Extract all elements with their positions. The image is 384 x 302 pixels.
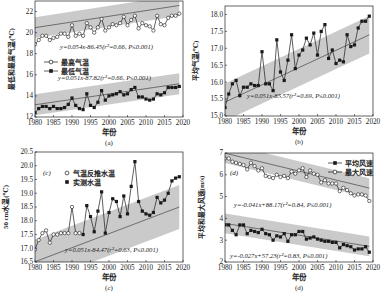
data-point — [368, 15, 371, 18]
data-point — [246, 86, 249, 89]
plot-area — [223, 15, 371, 121]
data-point — [249, 82, 252, 85]
data-point — [346, 244, 349, 247]
data-point — [74, 104, 77, 107]
x-tick-label: 2015 — [157, 264, 172, 272]
data-point — [294, 172, 297, 175]
data-point — [227, 92, 230, 95]
x-tick-label: 2010 — [329, 118, 344, 126]
x-tick-label: 1995 — [273, 118, 288, 126]
data-point — [316, 238, 319, 241]
y-tick-label: 17.0 — [20, 245, 33, 253]
data-point — [320, 239, 323, 242]
data-point — [107, 94, 110, 97]
data-point — [357, 26, 360, 29]
data-point — [283, 79, 286, 82]
data-point — [148, 214, 151, 217]
data-point — [271, 176, 274, 179]
regression-equation: y=0.051x-85.57(r²=0.69, P≤0.001) — [246, 92, 340, 100]
data-point — [249, 229, 252, 232]
y-tick-label: 18.0 — [20, 217, 33, 225]
data-point — [260, 228, 263, 231]
data-point — [294, 67, 297, 70]
data-point — [48, 38, 51, 41]
data-point — [111, 93, 114, 96]
data-point — [67, 103, 70, 106]
legend-label: 最高气温 — [61, 58, 89, 67]
data-point — [37, 238, 40, 241]
x-tick-label: 2010 — [139, 264, 154, 272]
y-tick-label: 17.0 — [210, 45, 223, 53]
legend-item: 气温反推水温 — [65, 169, 115, 178]
data-point — [238, 162, 241, 165]
data-point — [323, 23, 326, 26]
data-point — [331, 48, 334, 51]
y-tick-label: 16.5 — [210, 62, 223, 70]
data-point — [327, 240, 330, 243]
x-tick-label: 1990 — [65, 119, 80, 127]
data-point — [78, 107, 81, 110]
x-tick-label: 1990 — [255, 264, 270, 272]
data-point — [155, 14, 158, 17]
y-tick-label: 16.0 — [210, 79, 223, 87]
regression-equation: y=-0.041x+88.17(r²=0.84, P≤0.001) — [233, 201, 331, 209]
data-point — [227, 223, 230, 226]
data-point — [305, 37, 308, 40]
data-point — [152, 97, 155, 100]
y-axis-label: 50 cm水温(℃) — [1, 185, 10, 229]
legend-item: 实测水温 — [65, 178, 101, 187]
data-point — [275, 234, 278, 237]
data-point — [301, 48, 304, 51]
data-point — [231, 229, 234, 232]
data-point — [59, 32, 62, 35]
regression-equation: y=0.054x-86.45(r²=0.66, P≤0.001) — [59, 43, 153, 51]
data-point — [141, 95, 144, 98]
data-point — [163, 24, 166, 27]
data-point — [290, 170, 293, 173]
data-point — [309, 236, 312, 239]
data-point — [159, 93, 162, 96]
data-point — [257, 231, 260, 234]
data-point — [290, 33, 293, 36]
data-point — [264, 174, 267, 177]
x-tick-label: 1985 — [236, 264, 251, 272]
data-point — [156, 92, 159, 95]
x-tick-label: 2020 — [176, 264, 191, 272]
data-point — [70, 205, 73, 208]
data-point — [78, 32, 81, 35]
data-point — [111, 197, 114, 200]
data-point — [272, 239, 275, 242]
y-tick-label: 7 — [219, 149, 223, 157]
panel-caption: (a) — [105, 139, 113, 147]
x-tick-label: 1985 — [46, 119, 61, 127]
x-tick-label: 2020 — [366, 118, 381, 126]
data-point — [126, 212, 129, 215]
x-tick-label: 2005 — [310, 118, 325, 126]
y-tick-label: 18.5 — [20, 203, 33, 211]
data-point — [144, 24, 147, 27]
data-point — [152, 29, 155, 32]
regression-equation: y=-0.027x+57.23(r²=0.83, P≤0.001) — [229, 252, 327, 260]
data-point — [45, 105, 48, 108]
x-tick-label: 2000 — [102, 264, 117, 272]
data-point — [96, 210, 99, 213]
data-point — [107, 26, 110, 29]
data-point — [41, 34, 44, 37]
data-point — [156, 196, 159, 199]
regression-equation: y=0.051x-84.47(r²=0.63, P≤0.001) — [64, 246, 158, 254]
data-point — [137, 95, 140, 98]
data-point — [253, 230, 256, 233]
data-point — [327, 57, 330, 60]
data-point — [56, 233, 59, 236]
data-point — [268, 233, 271, 236]
data-point — [227, 157, 230, 160]
legend-item: 最低气温 — [44, 67, 89, 76]
data-point — [167, 86, 170, 89]
data-point — [301, 167, 304, 170]
data-point — [63, 32, 66, 35]
y-tick-label: 14 — [26, 92, 34, 100]
data-point — [246, 168, 249, 171]
data-point — [264, 82, 267, 85]
legend-marker — [65, 180, 69, 184]
y-tick-label: 19.5 — [20, 176, 33, 184]
